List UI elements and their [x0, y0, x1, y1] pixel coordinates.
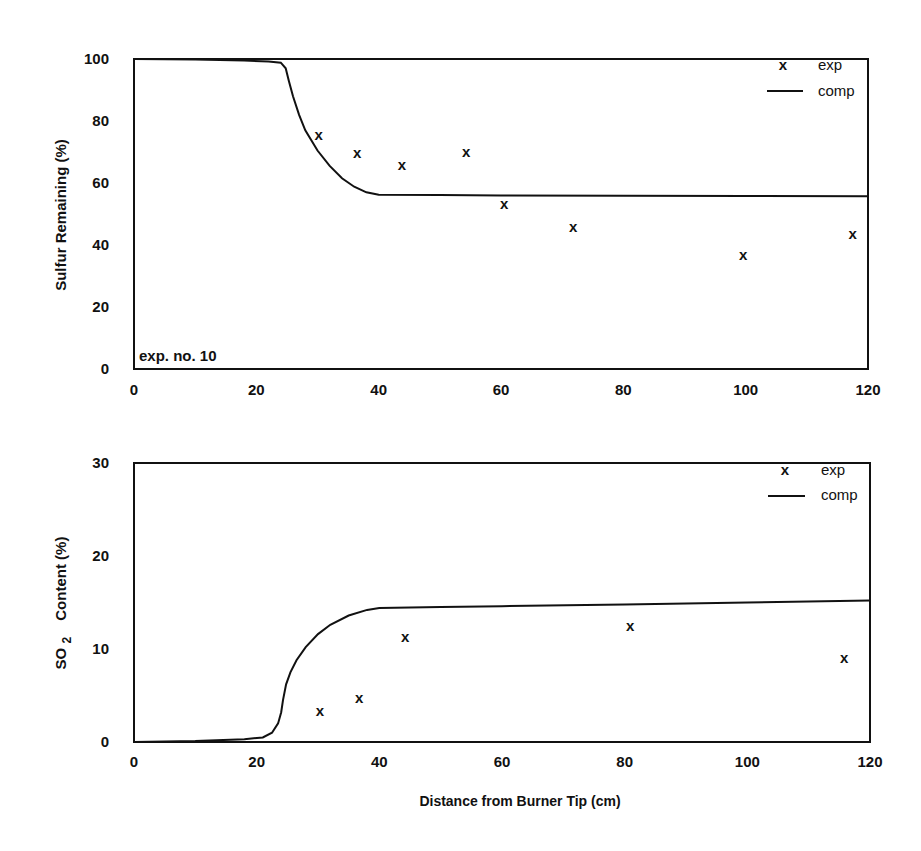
x-tick-label: 60 — [494, 753, 511, 770]
x-tick-labels: 020406080100120 — [130, 381, 881, 398]
x-tick-label: 100 — [735, 753, 760, 770]
exp-data-point: x — [840, 649, 849, 666]
y-axis-label: SO 2 Content (%) — [52, 537, 74, 670]
chart-canvas: 020406080100 020406080100120 xxxxxxxx Su… — [0, 0, 921, 851]
y-label-rest: Content (%) — [52, 537, 69, 621]
svg-text:SO 2 Content: SO 2 Content (%) — [52, 537, 74, 670]
y-tick-labels: 0102030 — [92, 454, 109, 750]
so2-content-plot: 0102030 020406080100120 xxxxx SO 2 Conte… — [52, 454, 883, 809]
y-tick-label: 20 — [92, 298, 109, 315]
x-tick-label: 80 — [615, 381, 632, 398]
x-tick-label: 0 — [130, 753, 138, 770]
sulfur-remaining-plot: 020406080100 020406080100120 xxxxxxxx Su… — [52, 50, 881, 398]
x-tick-label: 20 — [248, 753, 265, 770]
y-label-so: SO — [52, 647, 69, 669]
legend-exp-label: exp — [821, 461, 845, 478]
y-axis-label: Sulfur Remaining (%) — [52, 139, 69, 291]
exp-data-point: x — [401, 628, 410, 645]
x-tick-labels: 020406080100120 — [130, 753, 883, 770]
annotation-exp-no: exp. no. 10 — [139, 347, 217, 364]
exp-data-point: x — [355, 689, 364, 706]
legend-comp-label: comp — [821, 486, 858, 503]
exp-data-point: x — [500, 195, 509, 212]
y-tick-label: 30 — [92, 454, 109, 471]
y-tick-label: 80 — [92, 112, 109, 129]
comp-line — [134, 59, 868, 196]
plot-frame — [134, 59, 868, 369]
y-tick-label: 60 — [92, 174, 109, 191]
x-tick-label: 20 — [248, 381, 265, 398]
y-label-subscript: 2 — [60, 637, 74, 644]
exp-data-point: x — [315, 126, 324, 143]
exp-data-point: x — [353, 144, 362, 161]
x-tick-label: 40 — [371, 753, 388, 770]
exp-data-point: x — [398, 156, 407, 173]
exp-data-point: x — [462, 143, 471, 160]
y-tick-label: 0 — [101, 360, 109, 377]
exp-data-point: x — [569, 218, 578, 235]
legend: x exp comp — [767, 56, 855, 99]
exp-data-point: x — [626, 617, 635, 634]
x-tick-label: 40 — [370, 381, 387, 398]
x-tick-label: 80 — [616, 753, 633, 770]
legend-comp-label: comp — [818, 82, 855, 99]
y-tick-label: 40 — [92, 236, 109, 253]
y-tick-label: 0 — [101, 733, 109, 750]
exp-data-point: x — [849, 225, 858, 242]
x-tick-label: 100 — [733, 381, 758, 398]
x-tick-label: 120 — [855, 381, 880, 398]
y-tick-label: 20 — [92, 547, 109, 564]
exp-markers: xxxxx — [316, 617, 849, 720]
x-tick-label: 120 — [857, 753, 882, 770]
y-tick-label: 10 — [92, 640, 109, 657]
legend-exp-label: exp — [818, 56, 842, 73]
y-tick-labels: 020406080100 — [84, 50, 109, 377]
legend-exp-marker: x — [781, 461, 790, 478]
x-axis-label: Distance from Burner Tip (cm) — [419, 793, 620, 809]
legend: x exp comp — [768, 461, 858, 503]
exp-data-point: x — [739, 246, 748, 263]
exp-data-point: x — [316, 702, 325, 719]
comp-line — [134, 601, 870, 742]
legend-exp-marker: x — [779, 56, 788, 73]
x-tick-label: 60 — [493, 381, 510, 398]
x-tick-label: 0 — [130, 381, 138, 398]
y-tick-label: 100 — [84, 50, 109, 67]
